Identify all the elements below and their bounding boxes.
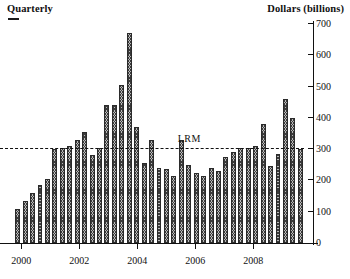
lrm-label: LRM [178,133,201,144]
lrm-reference-line [0,148,304,149]
bar [209,168,214,243]
y-axis-tick-label: 700 [310,19,344,29]
y-axis-tick-label: 200 [310,175,344,185]
bar [201,176,206,243]
chart-left-title: Quarterly [7,3,53,14]
x-axis-tick [195,244,196,249]
bar [142,163,147,243]
bar [171,176,176,243]
x-axis-tick-label: 2002 [69,256,89,266]
bar [149,140,154,243]
chart-right-title: Dollars (billions) [267,3,344,14]
bar [298,149,303,243]
x-axis-tick [21,244,22,249]
plot-area: LRM 0100200300400500600700 2000200220042… [14,24,304,243]
y-axis-tick-label: 300 [310,144,344,154]
bar [15,209,20,243]
bar [246,148,251,243]
quarterly-bar-chart: Quarterly Dollars (billions) LRM 0100200… [0,0,350,279]
x-axis-tick-label: 2004 [127,256,147,266]
y-axis-tick-label: 600 [310,50,344,60]
bar [253,146,258,243]
bar [23,201,28,243]
bar [90,155,95,243]
bar [134,127,139,243]
bar [119,85,124,243]
y-axis-tick-label: 500 [310,82,344,92]
bar [231,152,236,243]
bar [194,173,199,243]
bar [157,168,162,243]
bar [30,193,35,243]
bar [127,33,132,243]
bar [268,166,273,243]
x-axis-tick-label: 2008 [243,256,263,266]
bar [52,149,57,243]
x-axis-tick-label: 2006 [185,256,205,266]
legend-dash-swatch [8,18,19,20]
bar [216,171,221,243]
bars-layer [14,24,304,243]
bar [223,157,228,243]
bar [164,169,169,243]
bar [276,154,281,243]
bar [283,99,288,243]
bar [104,105,109,243]
bar [238,148,243,243]
x-axis-line [0,243,318,244]
bar [112,105,117,243]
bar [186,165,191,243]
bar [179,140,184,243]
y-axis-tick-label: 0 [310,238,344,248]
bar [45,179,50,243]
bar [290,118,295,243]
x-axis-tick-label: 2000 [11,256,31,266]
bar [38,185,43,243]
bar [97,148,102,243]
y-axis-tick-label: 400 [310,113,344,123]
bar [75,140,80,243]
bar [261,124,266,243]
bar [67,146,72,243]
x-axis-tick [137,244,138,249]
bar [60,148,65,243]
y-axis-tick-label: 100 [310,207,344,217]
x-axis-tick [253,244,254,249]
x-axis-tick [79,244,80,249]
